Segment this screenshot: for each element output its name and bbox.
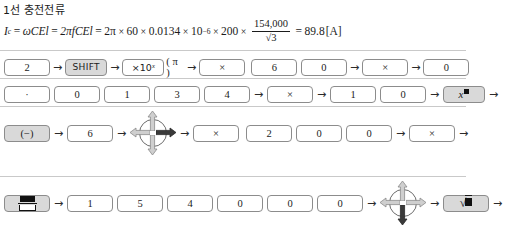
dpad-left-arrow-icon[interactable] — [130, 127, 150, 138]
flow-arrow: → — [392, 127, 409, 140]
key-1[interactable]: 1 — [104, 86, 150, 103]
key-0[interactable]: 0 — [317, 195, 363, 212]
flow-arrow: → — [455, 127, 472, 140]
dpad-down-key[interactable] — [380, 181, 426, 225]
divider-3 — [0, 106, 466, 107]
key-0[interactable]: 0 — [346, 125, 392, 142]
key-pi-annotation: ( π ) — [164, 56, 184, 78]
formula-eq-4: = — [296, 25, 303, 37]
flow-arrow: → — [107, 61, 122, 74]
formula-line: Ic = ωCEl = 2πfCEl = 2π × 60 × 0.0134 × … — [4, 19, 342, 43]
flow-arrow: → — [347, 61, 362, 74]
key-4[interactable]: 4 — [167, 195, 213, 212]
formula-times-2: × — [141, 26, 147, 37]
key-x-power[interactable]: x — [443, 86, 485, 103]
flow-arrow: → — [363, 197, 380, 210]
dpad-right-arrow-icon[interactable] — [156, 127, 176, 138]
key-0[interactable]: 0 — [423, 59, 469, 76]
flow-arrow: → — [485, 88, 502, 101]
keystroke-row-4: → 1 5 4 0 0 0 → — [0, 180, 466, 226]
keystroke-row-1: 2 → SHIFT → ×10x ( π ) → × 6 0 → × → 0 — [0, 58, 466, 76]
key-multiply[interactable]: × — [199, 59, 245, 76]
formula-eq-2: = — [51, 25, 58, 37]
flow-arrow: → — [250, 88, 267, 101]
key-fraction[interactable] — [4, 195, 50, 212]
formula-value-length: 200 — [221, 25, 238, 37]
key-times-ten-power-glyph: ×10x — [132, 62, 155, 73]
formula-term-2: 2πfCEl — [60, 25, 93, 37]
dpad-left-arrow-icon[interactable] — [380, 197, 400, 208]
dpad-down-arrow-icon[interactable] — [147, 135, 158, 155]
key-6[interactable]: 6 — [67, 125, 113, 142]
formula-term-3-lead: 2π — [104, 25, 116, 37]
key-times-ten-power[interactable]: ×10x — [122, 59, 164, 76]
formula-value-capacitance: 0.0134 — [149, 25, 181, 37]
formula-times-3: × — [183, 26, 189, 37]
key-multiply[interactable]: × — [193, 125, 239, 142]
flow-arrow: → — [408, 61, 423, 74]
formula-result-unit: [A] — [326, 25, 342, 37]
key-1[interactable]: 1 — [330, 86, 376, 103]
formula-term-1: ωCEl — [23, 25, 49, 37]
key-0[interactable]: 0 — [301, 59, 347, 76]
flow-arrow: → — [50, 197, 67, 210]
flow-arrow: → — [176, 127, 193, 140]
dpad-right-key[interactable] — [130, 111, 176, 155]
key-shift[interactable]: SHIFT — [65, 59, 107, 76]
key-x-power-glyph: x — [459, 89, 470, 100]
formula-eq-3: = — [95, 25, 102, 37]
formula-lhs-subscript: c — [8, 27, 11, 36]
formula-value-frequency: 60 — [127, 25, 139, 37]
key-3[interactable]: 3 — [154, 86, 200, 103]
formula-times-4: × — [213, 26, 219, 37]
key-2[interactable]: 2 — [246, 125, 292, 142]
formula-times-5: × — [241, 26, 247, 37]
key-decimal-point[interactable]: · — [4, 86, 50, 103]
key-5[interactable]: 5 — [117, 195, 163, 212]
key-0[interactable]: 0 — [296, 125, 342, 142]
formula-fraction-numerator: 154,000 — [252, 19, 290, 30]
flow-arrow: → — [489, 197, 506, 210]
key-4[interactable]: 4 — [204, 86, 250, 103]
keystroke-row-2: · 0 1 3 4 → × → 1 0 → x → — [0, 85, 466, 103]
key-1[interactable]: 1 — [67, 195, 113, 212]
flow-arrow: → — [113, 127, 130, 140]
square-root-icon: √ — [460, 195, 473, 212]
divider-1 — [0, 50, 466, 51]
key-0[interactable]: 0 — [380, 86, 426, 103]
dpad-down-arrow-icon[interactable] — [397, 205, 408, 225]
formula-result-value: 89.8 — [305, 25, 325, 37]
key-0[interactable]: 0 — [54, 86, 100, 103]
formula-fraction-denominator: √3 — [263, 33, 278, 44]
formula-power-base: 10 — [191, 25, 203, 37]
formula-power-exponent: −6 — [202, 27, 210, 36]
divider-4 — [0, 176, 466, 177]
page-title: 1선 충전전류 — [3, 1, 65, 17]
fraction-icon — [18, 196, 37, 211]
flow-arrow: → — [313, 88, 330, 101]
key-multiply[interactable]: × — [409, 125, 455, 142]
formula-times-1: × — [118, 26, 124, 37]
key-negative-sign[interactable]: (−) — [4, 125, 50, 142]
key-2[interactable]: 2 — [4, 59, 50, 76]
key-6[interactable]: 6 — [251, 59, 297, 76]
key-multiply[interactable]: × — [362, 59, 408, 76]
flow-arrow: → — [50, 61, 65, 74]
keystroke-row-3: (−) → 6 → → × — [0, 110, 466, 156]
formula-fraction: 154,000 √3 — [252, 19, 290, 43]
flow-arrow: → — [426, 197, 443, 210]
divider-2 — [0, 78, 466, 79]
dpad-right-arrow-icon[interactable] — [406, 197, 426, 208]
formula-eq-1: = — [14, 25, 21, 37]
flow-arrow: → — [426, 88, 443, 101]
key-square-root[interactable]: √ — [443, 195, 489, 212]
key-0[interactable]: 0 — [267, 195, 313, 212]
key-multiply[interactable]: × — [267, 86, 313, 103]
flow-arrow: → — [184, 61, 199, 74]
key-0[interactable]: 0 — [217, 195, 263, 212]
flow-arrow: → — [50, 127, 67, 140]
